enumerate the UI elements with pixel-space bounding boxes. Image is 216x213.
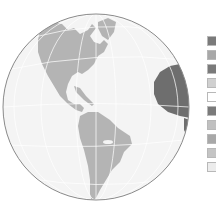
legend-swatch-9 bbox=[207, 148, 216, 158]
lake bbox=[103, 140, 113, 144]
legend-swatch-4 bbox=[207, 78, 216, 88]
africa-south bbox=[184, 118, 194, 138]
legend bbox=[207, 36, 216, 176]
globe-map bbox=[0, 0, 216, 213]
legend-swatch-7 bbox=[207, 120, 216, 130]
legend-swatch-10 bbox=[207, 162, 216, 172]
legend-swatch-3 bbox=[207, 64, 216, 74]
legend-swatch-2 bbox=[207, 50, 216, 60]
legend-swatch-1 bbox=[207, 36, 216, 46]
legend-swatch-8 bbox=[207, 134, 216, 144]
legend-swatch-5 bbox=[207, 92, 216, 102]
legend-swatch-6 bbox=[207, 106, 216, 116]
